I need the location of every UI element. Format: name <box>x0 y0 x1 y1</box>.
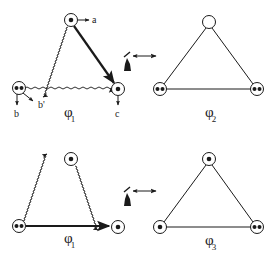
edge-top-left <box>164 28 206 84</box>
node-top <box>65 153 78 166</box>
wavy-edge-b-to-c <box>25 87 111 89</box>
phi-subscript: 3 <box>212 242 217 252</box>
node-c <box>112 83 125 96</box>
thick-edge-a-to-c <box>74 26 114 83</box>
node-empty-top <box>203 16 216 29</box>
panel-top-right: φ2 <box>154 16 264 125</box>
edge-top-left <box>164 165 206 222</box>
panel-top-left: a b b' c φ1 <box>13 14 125 125</box>
node-b <box>13 82 26 95</box>
transition-arrow-top <box>124 52 156 71</box>
node-right <box>112 221 125 234</box>
wavy-edge-a-to-b <box>43 27 68 97</box>
edge-top-right <box>212 28 253 84</box>
pointer-figure-icon <box>124 58 131 71</box>
label-b: b <box>14 108 19 119</box>
wavy-edge-left-to-top <box>23 154 47 221</box>
arrow-b-prime <box>23 93 33 101</box>
phi-subscript: 1 <box>71 114 76 124</box>
phi-label: φ1 <box>64 230 75 250</box>
panel-bottom-left: φ1 <box>13 153 125 251</box>
node-double-left <box>13 220 26 233</box>
phi-subscript: 2 <box>212 114 217 124</box>
phi-subscript: 1 <box>71 240 76 250</box>
phi-label: φ3 <box>205 232 217 252</box>
wavy-edge-top-to-right <box>75 166 98 230</box>
transition-arrow-bottom <box>124 187 156 206</box>
phi-label: φ2 <box>205 104 216 124</box>
node-double-right <box>251 83 264 96</box>
node-top <box>203 153 216 166</box>
panel-bottom-right: φ3 <box>154 153 264 253</box>
node-left <box>154 221 167 234</box>
label-a: a <box>92 14 97 25</box>
node-double-right <box>251 221 264 234</box>
node-double-left <box>154 83 167 96</box>
diagram-canvas: a b b' c φ1 <box>0 0 278 261</box>
node-a <box>65 14 78 27</box>
label-b-prime: b' <box>38 99 45 110</box>
phi-label: φ1 <box>64 104 75 124</box>
label-c: c <box>115 108 120 119</box>
pointer-figure-icon <box>124 193 131 206</box>
edge-top-right <box>212 165 253 222</box>
